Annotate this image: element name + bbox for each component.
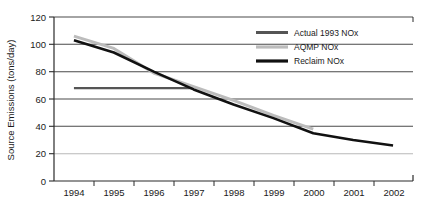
legend-label-reclaim-nox: Reclaim NOx — [294, 56, 345, 66]
y-tick-label-40: 40 — [35, 121, 46, 132]
x-tick-label-1997: 1997 — [183, 187, 204, 198]
y-tick-label-80: 80 — [35, 66, 46, 77]
x-tick-label-1994: 1994 — [63, 187, 84, 198]
x-tick-label-2000: 2000 — [303, 187, 324, 198]
chart-container: Source Emissions (tons/day) — [0, 0, 427, 214]
legend-label-actual-1993-nox: Actual 1993 NOx — [294, 28, 359, 38]
legend-label-aqmp-nox: AQMP NOx — [294, 42, 339, 52]
y-tick-label-60: 60 — [35, 94, 46, 105]
x-tick-label-2002: 2002 — [383, 187, 404, 198]
x-tick-label-1996: 1996 — [143, 187, 164, 198]
line-chart: Source Emissions (tons/day) — [0, 0, 427, 214]
y-tick-label-20: 20 — [35, 148, 46, 159]
y-axis-title: Source Emissions (tons/day) — [5, 40, 16, 161]
x-tick-label-2001: 2001 — [343, 187, 364, 198]
y-tick-label-0: 0 — [41, 176, 46, 187]
x-tick-label-1995: 1995 — [103, 187, 124, 198]
x-tick-label-1999: 1999 — [263, 187, 284, 198]
x-tick-label-1998: 1998 — [223, 187, 244, 198]
y-tick-label-120: 120 — [30, 12, 46, 23]
y-tick-label-100: 100 — [30, 39, 46, 50]
x-tick-labels: 1994 1995 1996 1997 1998 1999 2000 2001 … — [63, 187, 404, 198]
